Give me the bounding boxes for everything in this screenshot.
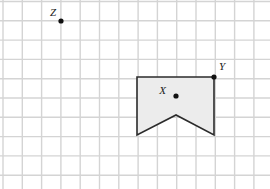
point-label-Z: Z [50,6,57,18]
figure-background [0,0,270,189]
point-marker-Y [211,74,216,79]
grid-figure-canvas: XYZ [0,0,270,189]
point-marker-Z [58,18,63,23]
point-marker-X [173,93,178,98]
figure-svg: XYZ [0,0,270,189]
point-label-X: X [158,84,167,96]
